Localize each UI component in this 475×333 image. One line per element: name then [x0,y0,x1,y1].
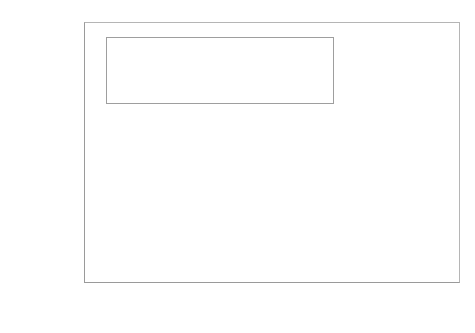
chart-legend [106,37,334,104]
y-axis-tick-labels [26,22,80,281]
energy-consumption-chart [0,0,475,333]
x-axis-tick-labels [84,284,458,300]
